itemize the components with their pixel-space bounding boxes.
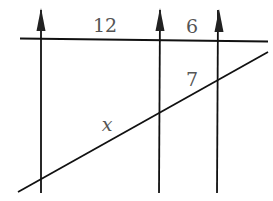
arrow-up-icon <box>156 8 165 31</box>
parallel-line-3 <box>215 9 224 193</box>
transversal-bottom <box>18 52 268 192</box>
label-7: 7 <box>186 68 198 90</box>
arrow-up-icon <box>37 8 46 31</box>
label-x: x <box>102 113 113 135</box>
label-6: 6 <box>186 15 198 37</box>
parallel-line-2 <box>156 8 165 193</box>
parallel-line-1 <box>37 8 46 193</box>
parallel-lines-diagram: 12 6 7 x <box>0 0 273 201</box>
label-12: 12 <box>93 14 117 36</box>
arrow-up-icon <box>215 9 224 32</box>
transversal-top <box>20 39 268 42</box>
